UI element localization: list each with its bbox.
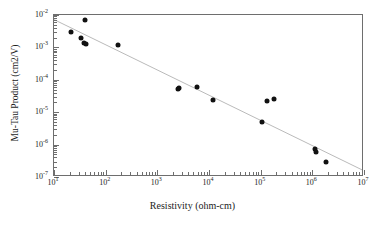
x-tick-minor [225,172,226,175]
y-tick-minor [54,57,57,58]
data-point [211,98,216,103]
x-tick-minor [258,172,259,175]
y-tick-minor [54,167,57,168]
y-tick-minor [54,93,57,94]
x-tick-minor [201,172,202,175]
x-tick-minor [301,172,302,175]
y-tick-minor [54,87,57,88]
x-tick-minor [356,172,357,175]
x-tick-minor [328,172,329,175]
x-tick-minor [173,172,174,175]
y-tick-minor [54,102,57,103]
y-tick-minor [54,119,57,120]
x-tick-major [209,170,210,175]
x-tick-minor [188,172,189,175]
x-axis-title: Resistivity (ohm-cm) [0,200,385,211]
y-tick-label: 10-2 [20,10,48,19]
y-tick-label: 10-6 [20,139,48,148]
x-tick-minor [292,172,293,175]
x-tick-minor [121,172,122,175]
x-tick-minor [94,172,95,175]
data-point [194,84,199,89]
x-tick-label: 102 [99,178,110,187]
y-tick-minor [54,83,57,84]
y-tick-minor [54,49,57,50]
x-tick-minor [353,172,354,175]
y-tick-minor [54,55,57,56]
y-tick-label: 10-3 [20,42,48,51]
x-tick-label: 104 [203,178,214,187]
x-tick-minor [98,172,99,175]
y-tick-minor [54,32,57,33]
y-tick-minor [54,154,57,155]
y-tick-minor [54,97,57,98]
data-point [115,42,120,47]
y-tick-minor [54,64,57,65]
x-tick-major [312,170,313,175]
x-tick-minor [130,172,131,175]
x-tick-label: 103 [151,178,162,187]
data-point [84,41,89,46]
x-tick-minor [307,172,308,175]
x-tick-minor [362,172,363,175]
data-point [176,85,181,90]
x-tick-minor [337,172,338,175]
x-tick-minor [182,172,183,175]
x-tick-major [54,170,55,175]
x-tick-minor [103,172,104,175]
y-tick-minor [54,85,57,86]
x-tick-minor [359,172,360,175]
y-tick-minor [54,20,57,21]
x-tick-minor [240,172,241,175]
x-tick-label: 107 [358,178,369,187]
x-tick-minor [79,172,80,175]
x-tick-minor [193,172,194,175]
y-tick-minor [54,60,57,61]
x-tick-minor [276,172,277,175]
y-tick-minor [54,162,57,163]
y-tick-minor [54,125,57,126]
x-tick-minor [146,172,147,175]
y-tick-minor [54,52,57,53]
y-tick-minor [54,81,57,82]
y-tick-minor [54,28,57,29]
y-tick-minor [54,114,57,115]
x-tick-minor [101,172,102,175]
x-tick-minor [204,172,205,175]
x-tick-label: 106 [306,178,317,187]
plot-area [54,15,362,175]
y-tick-minor [54,135,57,136]
x-tick-minor [85,172,86,175]
x-tick-minor [234,172,235,175]
data-point [323,159,328,164]
y-tick-minor [54,146,57,147]
x-tick-major [157,170,158,175]
x-tick-major [261,170,262,175]
x-tick-minor [297,172,298,175]
y-tick-minor [54,148,57,149]
y-tick-minor [54,25,57,26]
x-tick-minor [310,172,311,175]
y-tick-minor [54,16,57,17]
data-point [83,18,88,23]
y-tick-label: 10-5 [20,107,48,116]
x-tick-minor [245,172,246,175]
x-tick-minor [343,172,344,175]
x-tick-minor [149,172,150,175]
y-tick-minor [54,152,57,153]
x-tick-minor [137,172,138,175]
x-tick-minor [90,172,91,175]
y-tick-minor [54,129,57,130]
y-tick-minor [54,38,57,39]
x-tick-minor [152,172,153,175]
data-point [259,119,264,124]
x-tick-minor [198,172,199,175]
x-tick-minor [249,172,250,175]
y-tick-minor [54,22,57,23]
y-tick-label: 10-4 [20,74,48,83]
data-point [271,97,276,102]
x-tick-minor [155,172,156,175]
chart-figure: 101102103104105106107 10-210-310-410-510… [0,0,385,225]
y-tick-minor [54,90,57,91]
y-tick-minor [54,18,57,19]
